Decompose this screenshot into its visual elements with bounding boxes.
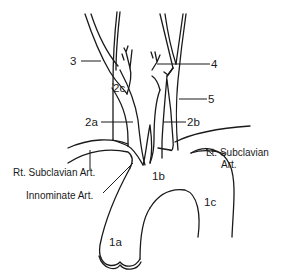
label-5: 5 xyxy=(208,93,214,105)
left-upper-branches xyxy=(151,14,186,150)
label-lt-subclavian-art: Art. xyxy=(221,159,237,170)
label-2c: 2c xyxy=(113,82,125,94)
label-innominate: Innominate Art. xyxy=(26,190,93,201)
label-lt-subclavian: Lt. Subclavian xyxy=(206,147,269,158)
label-3: 3 xyxy=(70,55,76,67)
rt-subclavian-lower xyxy=(68,150,132,168)
rt-subclavian-upper xyxy=(68,140,128,148)
label-1a: 1a xyxy=(109,236,122,248)
label-1b: 1b xyxy=(152,170,165,182)
label-2b: 2b xyxy=(187,116,200,128)
label-4: 4 xyxy=(211,58,218,70)
label-rt-subclavian: Rt. Subclavian Art. xyxy=(13,167,95,178)
label-1c: 1c xyxy=(204,196,216,208)
inner-arch xyxy=(150,190,199,237)
aortic-arch-diagram: 3 4 5 2c 2a 2b 1b 1c 1a Rt. Subclavian A… xyxy=(0,0,287,276)
lt-subclavian-upper xyxy=(175,126,250,142)
label-2a: 2a xyxy=(85,116,98,128)
arch-notch xyxy=(143,125,152,165)
ascending-aorta xyxy=(99,168,150,269)
left-common-carotid xyxy=(150,76,173,163)
